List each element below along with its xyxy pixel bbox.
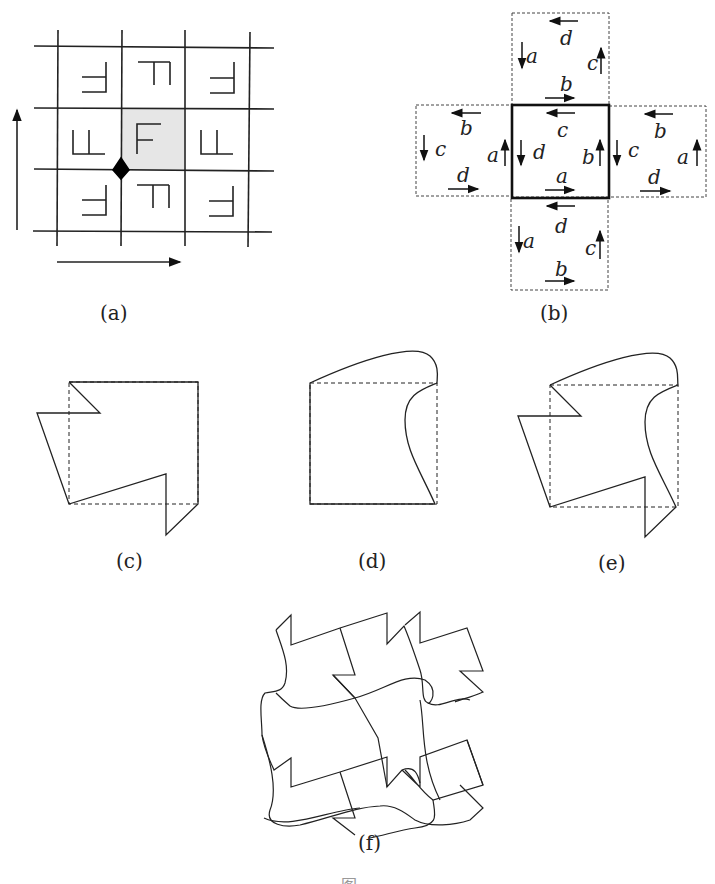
panel-f xyxy=(261,612,483,838)
svg-text:d: d xyxy=(457,163,470,187)
svg-text:a: a xyxy=(526,44,538,68)
svg-text:c: c xyxy=(587,51,598,75)
svg-text:b: b xyxy=(560,72,573,96)
svg-text:d: d xyxy=(555,214,568,238)
svg-text:a: a xyxy=(487,143,499,167)
panel-d xyxy=(310,351,437,504)
svg-text:c: c xyxy=(628,138,639,162)
panel-c xyxy=(37,382,198,535)
svg-text:(f): (f) xyxy=(358,831,381,855)
svg-text:b: b xyxy=(460,116,473,140)
svg-text:(d): (d) xyxy=(358,549,386,573)
svg-text:d: d xyxy=(648,165,661,189)
panel-b: d a c b b c a d c d b a b c a d d a c b xyxy=(416,13,706,290)
svg-text:(b): (b) xyxy=(540,301,568,325)
svg-text:(e): (e) xyxy=(598,551,625,575)
svg-text:c: c xyxy=(557,118,568,142)
svg-text:c: c xyxy=(435,137,446,161)
svg-text:a: a xyxy=(677,145,689,169)
svg-text:a: a xyxy=(523,229,535,253)
panel-e xyxy=(518,353,678,537)
svg-text:d: d xyxy=(533,140,546,164)
svg-text:(c): (c) xyxy=(116,549,143,573)
svg-text:b: b xyxy=(654,119,667,143)
svg-text:b: b xyxy=(582,145,595,169)
figure-caption: 图 … xyxy=(110,872,610,884)
panel-a xyxy=(17,30,274,262)
svg-text:d: d xyxy=(560,26,573,50)
figure-canvas: (a) xyxy=(0,0,715,884)
svg-text:c: c xyxy=(585,236,596,260)
svg-text:a: a xyxy=(556,164,568,188)
svg-text:(a): (a) xyxy=(100,301,128,325)
svg-text:b: b xyxy=(555,257,568,281)
